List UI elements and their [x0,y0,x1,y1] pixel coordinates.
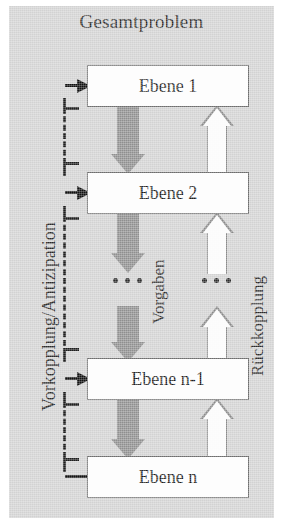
ellipsis-up-column [202,278,231,283]
label-vorkopplung-antizipation: Vorkopplung/Antizipation [39,222,60,411]
elbow-horizontal [63,348,79,351]
arrow-stem [117,211,139,255]
bracket-elbow-level2-lower [63,206,85,220]
bracket-elbow-level-n-1-upper [63,348,85,362]
level-box-label: Ebene 1 [139,76,197,97]
level-box-n[interactable]: Ebene n [87,456,249,498]
level-box-2[interactable]: Ebene 2 [87,172,249,214]
arrow-stem [117,397,139,441]
down-arrow-ellipsis-to-level-n-1 [110,306,146,362]
elbow-horizontal [63,107,79,110]
dot [113,278,118,283]
arrow-head [200,398,234,419]
label-vorgaben: Vorgaben [149,259,169,324]
level-box-label: Ebene n [139,467,197,488]
arrow-stem [65,475,89,478]
bracket-elbow-level-n-1-lower [63,392,85,406]
level-box-1[interactable]: Ebene 1 [87,65,249,107]
elbow-horizontal [63,162,79,165]
bracket-elbow-level2-upper [63,162,85,176]
dot [125,278,130,283]
up-arrow-level-n-1-to-ellipsis [199,306,235,362]
dot [226,278,231,283]
diagram-canvas: Gesamtproblem [9,6,274,518]
label-rueckkopplung: Rückkopplung [248,276,268,376]
up-arrow-ellipsis-to-level2 [199,212,235,274]
level-box-label: Ebene n-1 [131,369,204,390]
arrow-head [111,154,145,174]
arrow-head [200,105,234,126]
down-arrow-level1-to-level2 [110,104,146,174]
arrow-head [111,253,145,273]
arrow-stem [207,123,227,175]
dashed-connector-segment-top [63,108,66,164]
dot [214,278,219,283]
arrow-stem [207,230,227,274]
elbow-horizontal [63,458,79,461]
arrow-stem [117,306,139,344]
bracket-elbow-level1-upper [63,98,85,110]
down-arrow-level-n-1-to-level-n [110,397,146,459]
down-arrow-level2-to-ellipsis [110,211,146,273]
level-box-n-1[interactable]: Ebene n-1 [87,358,249,400]
arrow-head [200,306,234,327]
elbow-horizontal [63,217,79,220]
arrow-stem [207,416,227,460]
level-box-label: Ebene 2 [139,183,197,204]
dot [202,278,207,283]
dashed-connector-segment-bottom [63,402,66,458]
arrow-stem [117,104,139,156]
up-arrow-level2-to-level1 [199,105,235,175]
up-arrow-level-n-to-level-n-1 [199,398,235,460]
arrow-stem [207,324,227,362]
elbow-horizontal [63,403,79,406]
dot [137,278,142,283]
dashed-connector-segment-middle [63,216,66,346]
arrow-head [200,212,234,233]
diagram-title: Gesamtproblem [9,11,274,33]
ellipsis-down-column [113,278,142,283]
